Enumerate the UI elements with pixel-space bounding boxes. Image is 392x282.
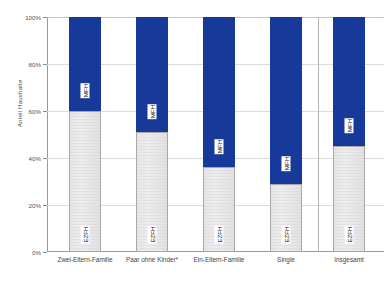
plot-area: 0%20%40%60%80%100% MFHEZFHMFHEZFHMFHEZFH… [47,17,384,252]
bar-segment-ezfh[interactable]: EZFH [69,111,101,252]
y-tick-mark-0 [43,252,47,253]
bar-segment-label-ezfh: EZFH [345,225,354,243]
y-axis-title: Anteil Haushalte [16,49,23,159]
bar-segment-mfh[interactable]: MFH [333,17,365,146]
y-tick-label-0: 0% [32,249,41,256]
x-axis-label-2: Paar ohne Kinder* [126,256,178,263]
bar-segment-ezfh[interactable]: EZFH [136,132,168,252]
bar-segment-label-mfh: MFH [81,83,90,98]
x-axis-label-1: Zwei-Eltern-Familie [57,256,112,263]
bar-segment-ezfh[interactable]: EZFH [333,146,365,252]
bar-segment-mfh[interactable]: MFH [136,17,168,132]
bar-segment-mfh[interactable]: MFH [270,17,302,184]
bar-segment-mfh[interactable]: MFH [69,17,101,111]
stacked-bar[interactable]: MFHEZFH [203,17,235,252]
bar-segment-ezfh[interactable]: EZFH [203,167,235,252]
stacked-bar[interactable]: MFHEZFH [136,17,168,252]
group-separator-line [318,17,319,252]
x-axis-label-4: Single [277,256,295,263]
bar-group[interactable]: MFHEZFH [203,17,235,252]
y-tick-mark-80 [43,64,47,65]
bar-group[interactable]: MFHEZFH [333,17,365,252]
bar-segment-label-ezfh: EZFH [81,225,90,243]
y-tick-mark-60 [43,111,47,112]
stacked-bar[interactable]: MFHEZFH [270,17,302,252]
bar-segment-mfh[interactable]: MFH [203,17,235,167]
y-tick-label-20: 20% [29,202,41,209]
bar-segment-label-mfh: MFH [148,104,157,119]
y-tick-label-100: 100% [25,14,41,21]
bar-group[interactable]: MFHEZFH [136,17,168,252]
bar-group[interactable]: MFHEZFH [270,17,302,252]
y-tick-mark-100 [43,17,47,18]
y-tick-label-40: 40% [29,155,41,162]
bar-segment-label-ezfh: EZFH [282,225,291,243]
stacked-bar[interactable]: MFHEZFH [333,17,365,252]
bar-segment-label-mfh: MFH [282,156,291,171]
x-axis-label-3: Ein-Eltern-Familie [194,256,245,263]
stacked-bar[interactable]: MFHEZFH [69,17,101,252]
bar-segment-label-ezfh: EZFH [215,225,224,243]
stacked-bar-chart: Anteil Haushalte 0%20%40%60%80%100% MFHE… [0,0,392,282]
bar-segment-label-mfh: MFH [345,118,354,133]
bar-group[interactable]: MFHEZFH [69,17,101,252]
bar-segment-label-mfh: MFH [215,139,224,154]
y-tick-label-80: 80% [29,61,41,68]
x-axis-label-5: Insgesamt [334,256,363,263]
y-tick-mark-40 [43,158,47,159]
bar-segment-ezfh[interactable]: EZFH [270,184,302,252]
y-tick-label-60: 60% [29,108,41,115]
bar-segment-label-ezfh: EZFH [148,225,157,243]
y-tick-mark-20 [43,205,47,206]
